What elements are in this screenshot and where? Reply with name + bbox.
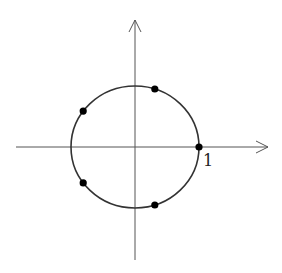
root-1-dot [151, 85, 158, 92]
roots-of-unity-diagram: 1 [0, 0, 282, 273]
diagram-canvas: 1 [0, 0, 282, 273]
root-4-dot [151, 201, 158, 208]
root-0-dot [195, 143, 202, 150]
unit-label: 1 [203, 151, 213, 170]
root-2-dot [80, 108, 87, 115]
root-3-dot [80, 179, 87, 186]
